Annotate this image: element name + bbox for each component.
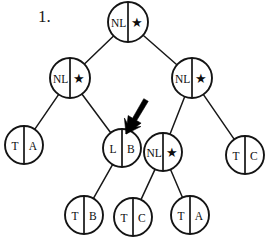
tree-edge: [142, 35, 177, 66]
node-right-label: B: [89, 210, 97, 222]
node-left-label: NL: [146, 147, 161, 159]
tree-node[interactable]: TC: [114, 198, 152, 236]
tree-edge: [84, 35, 115, 65]
node-right-label: A: [195, 210, 204, 222]
annotation-layer: [124, 99, 148, 134]
tree-node[interactable]: TC: [226, 136, 264, 174]
figure-page: NL★NL★NL★TALBNL★TCTBTCTA 1.: [0, 0, 274, 243]
node-null-star-icon: ★: [131, 15, 143, 30]
node-right-label: C: [138, 212, 146, 224]
tree-node[interactable]: LB: [103, 129, 141, 167]
node-left-label: NL: [53, 73, 68, 85]
tree-node[interactable]: TA: [5, 126, 43, 164]
node-right-label: A: [29, 140, 38, 152]
tree-node[interactable]: TA: [171, 196, 209, 234]
tree-node[interactable]: TB: [65, 196, 103, 234]
tree-node[interactable]: NL★: [172, 58, 212, 98]
node-left-label: T: [12, 140, 19, 152]
tree-node[interactable]: NL★: [144, 133, 182, 171]
node-left-label: T: [72, 210, 79, 222]
node-null-star-icon: ★: [73, 71, 85, 86]
tree-edge: [170, 96, 185, 136]
node-left-label: T: [121, 212, 128, 224]
tree-edge: [93, 164, 113, 200]
tree-edge: [170, 169, 183, 199]
node-null-star-icon: ★: [166, 145, 178, 160]
tree-edge: [34, 94, 59, 130]
node-right-label: B: [127, 143, 135, 155]
node-null-star-icon: ★: [195, 71, 207, 86]
tree-node[interactable]: NL★: [50, 58, 90, 98]
binary-tree-diagram: NL★NL★NL★TALBNL★TCTBTCTA 1.: [0, 0, 274, 243]
node-left-label: T: [178, 210, 185, 222]
node-left-label: L: [110, 143, 117, 155]
tree-edge: [203, 94, 235, 141]
tree-edge: [81, 93, 111, 133]
item-number-label: 1.: [38, 7, 51, 26]
node-right-label: C: [250, 150, 258, 162]
node-left-label: T: [233, 150, 240, 162]
tree-node[interactable]: NL★: [108, 2, 148, 42]
node-left-label: NL: [111, 17, 126, 29]
tree-edge: [141, 168, 156, 200]
node-left-label: NL: [175, 73, 190, 85]
